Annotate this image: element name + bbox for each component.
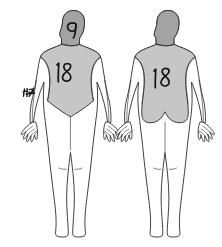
- figure-anterior[interactable]: 9 18 4½: [21, 11, 120, 238]
- body-diagram-canvas: 9 18 4½: [0, 0, 222, 247]
- body-diagram-page: Body surface area burn chart: [0, 0, 222, 247]
- posterior-head-shade: [154, 11, 179, 46]
- figure-posterior[interactable]: 18: [116, 11, 215, 238]
- anterior-head-shade: [60, 11, 85, 46]
